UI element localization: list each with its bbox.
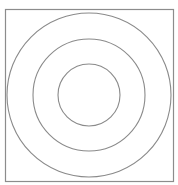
outer-ring	[7, 13, 171, 177]
middle-ring	[33, 39, 145, 151]
inner-ring	[58, 64, 120, 126]
square-frame	[6, 10, 174, 182]
concentric-circles-diagram	[0, 0, 178, 185]
rings-group	[7, 13, 171, 177]
